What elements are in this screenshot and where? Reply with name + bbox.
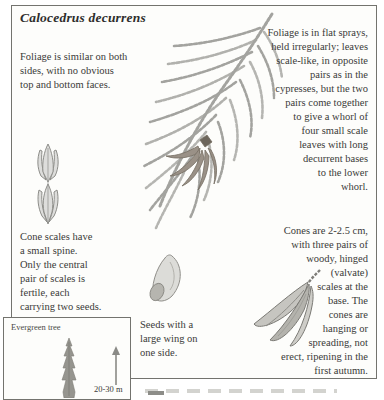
annotation-cone-scales: Cone scales have a small spine. Only the… [20, 230, 140, 314]
shoot-whorl-illustration [26, 142, 70, 226]
species-title: Calocedrus decurrens [20, 10, 146, 26]
cut-off-text-fragment [145, 389, 337, 393]
winged-seed-illustration [142, 252, 188, 306]
height-arrow-icon [106, 344, 126, 386]
habit-box: Evergreen tree 20-30 m [3, 317, 131, 400]
cut-off-text-fragment [148, 391, 164, 395]
annotation-cones: Cones are 2-2.5 cm, with three pairs of … [216, 224, 368, 378]
annotation-foliage-faces: Foliage is similar on both sides, with n… [20, 50, 152, 92]
height-range-label: 20-30 m [94, 384, 123, 394]
annotation-foliage-sprays: Foliage is in flat sprays, held irregula… [216, 26, 368, 194]
evergreen-tree-silhouette [44, 336, 94, 398]
habit-label: Evergreen tree [11, 322, 61, 332]
